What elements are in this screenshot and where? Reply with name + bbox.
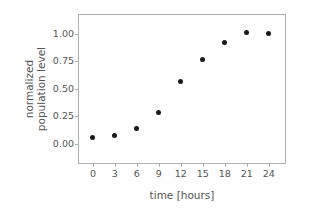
x-axis-tick-label: 9 bbox=[156, 169, 162, 179]
data-point bbox=[112, 133, 117, 138]
x-axis-tick-label: 3 bbox=[112, 169, 118, 179]
x-axis-tick-mark bbox=[159, 163, 160, 167]
x-axis-tick-label: 12 bbox=[175, 169, 187, 179]
data-points-layer bbox=[79, 15, 285, 163]
x-axis-tick-mark bbox=[203, 163, 204, 167]
data-point bbox=[134, 126, 139, 131]
data-point bbox=[222, 40, 227, 45]
x-axis-tick-label: 6 bbox=[134, 169, 140, 179]
data-point bbox=[90, 135, 95, 140]
y-axis-title: normalized population level bbox=[12, 14, 58, 164]
x-axis-tick-mark bbox=[93, 163, 94, 167]
plot-area: 0.000.250.500.751.00 03691215182124 bbox=[78, 14, 286, 164]
data-point bbox=[178, 79, 183, 84]
y-axis-title-line-1: normalized bbox=[23, 47, 35, 131]
x-axis-tick-mark bbox=[115, 163, 116, 167]
scatter-chart-figure: 0.000.250.500.751.00 03691215182124 time… bbox=[0, 0, 311, 218]
x-axis-tick-mark bbox=[225, 163, 226, 167]
x-axis-tick-mark bbox=[269, 163, 270, 167]
x-axis-tick-mark bbox=[181, 163, 182, 167]
data-point bbox=[200, 57, 205, 62]
x-axis-tick-label: 15 bbox=[197, 169, 209, 179]
data-point bbox=[266, 31, 271, 36]
data-point bbox=[156, 110, 161, 115]
x-axis-tick-label: 18 bbox=[219, 169, 231, 179]
x-axis-tick-label: 24 bbox=[263, 169, 275, 179]
data-point bbox=[244, 30, 249, 35]
x-axis-title: time [hours] bbox=[78, 190, 286, 201]
x-axis-tick-label: 21 bbox=[241, 169, 253, 179]
x-axis-tick-label: 0 bbox=[90, 169, 96, 179]
y-axis-title-line-2: population level bbox=[35, 47, 47, 131]
x-axis-tick-mark bbox=[247, 163, 248, 167]
x-axis-tick-mark bbox=[137, 163, 138, 167]
